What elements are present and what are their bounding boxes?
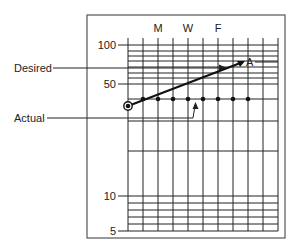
desired-label: Desired bbox=[14, 62, 52, 74]
day-label-w: W bbox=[183, 22, 194, 34]
y-label-50: 50 bbox=[104, 78, 116, 90]
aim-label: A bbox=[246, 56, 254, 68]
actual-arrowhead-icon bbox=[193, 102, 199, 109]
day-label-f: F bbox=[215, 22, 222, 34]
start-marker-icon bbox=[124, 102, 132, 110]
y-label-5: 5 bbox=[110, 225, 116, 237]
day-label-m: M bbox=[153, 22, 162, 34]
y-tick-leaders bbox=[118, 45, 128, 231]
celeration-chart: 100 50 10 5 M W F Desired A Actual bbox=[0, 0, 302, 251]
y-label-10: 10 bbox=[104, 190, 116, 202]
y-label-100: 100 bbox=[98, 39, 116, 51]
actual-label: Actual bbox=[14, 112, 45, 124]
chart-frame bbox=[87, 15, 285, 238]
